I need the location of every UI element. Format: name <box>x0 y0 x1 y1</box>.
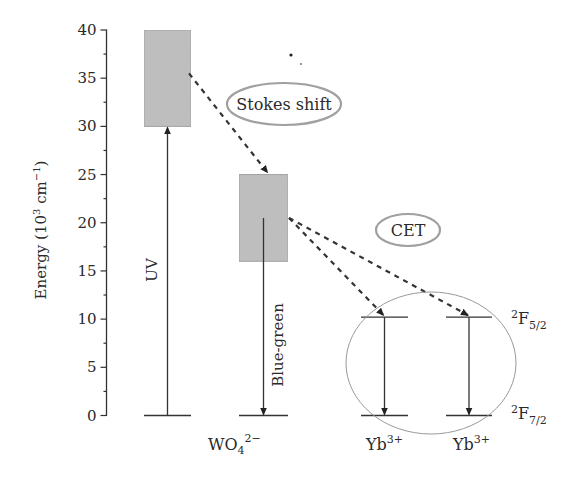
cet-annotation: CET <box>376 214 440 246</box>
cet-arrow <box>289 218 468 315</box>
y-tick-label: 10 <box>77 310 96 328</box>
scan-speck <box>289 53 292 56</box>
cet-arrow <box>289 218 384 315</box>
y-tick-label: 35 <box>77 69 96 87</box>
species-label-yb-1: Yb3+ <box>365 433 403 454</box>
species-label-yb-2: Yb3+ <box>452 433 490 454</box>
stokes-shift-label: Stokes shift <box>236 95 332 114</box>
energy-level-diagram: 0510152025303540 Energy (103 cm−1) Stoke… <box>0 0 584 477</box>
term-upper-label: 2F5/2 <box>511 308 547 332</box>
uv-label: UV <box>143 257 161 282</box>
energy-band <box>144 30 191 126</box>
scan-speck <box>300 63 302 65</box>
y-tick-label: 0 <box>87 407 97 425</box>
y-tick-label: 5 <box>87 358 97 376</box>
y-tick-label: 30 <box>77 117 96 135</box>
y-axis: 0510152025303540 <box>77 21 106 425</box>
yb-pair-ellipse <box>346 292 516 434</box>
y-tick-label: 40 <box>77 21 96 39</box>
y-tick-label: 20 <box>77 214 96 232</box>
species-label-wo4: WO42− <box>208 432 261 457</box>
stokes-shift-annotation: Stokes shift <box>227 83 341 125</box>
blue-green-label: Blue-green <box>269 303 287 387</box>
term-lower-label: 2F7/2 <box>511 403 547 427</box>
y-tick-label: 25 <box>77 166 96 184</box>
y-tick-label: 15 <box>77 262 96 280</box>
y-axis-title: Energy (103 cm−1) <box>31 161 50 300</box>
cet-label: CET <box>391 221 426 240</box>
